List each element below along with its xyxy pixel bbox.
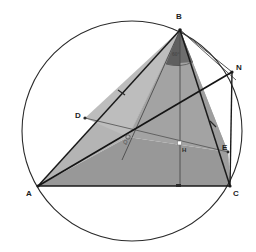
figure-canvas: B A C N D E H Q 60° (0, 0, 256, 252)
vertex-label-B: B (176, 13, 182, 21)
angle-label-60: 60° (172, 52, 180, 57)
vertex-label-A: A (26, 190, 32, 198)
tick-on-AC-icon (176, 184, 181, 187)
point-marker-A (36, 184, 39, 187)
geometry-diagram (0, 0, 256, 252)
point-label-D: D (75, 112, 81, 120)
point-label-E: E (222, 144, 227, 152)
point-marker-D (83, 116, 86, 119)
segment-NC (230, 72, 232, 186)
point-marker-N (230, 70, 233, 73)
point-label-H: H (182, 147, 186, 153)
point-marker-C (228, 184, 231, 187)
point-label-Q: Q (123, 139, 128, 145)
vertex-label-N: N (236, 64, 242, 72)
point-marker-H (178, 141, 182, 145)
point-marker-B (178, 28, 182, 32)
vertex-label-C: C (233, 190, 239, 198)
